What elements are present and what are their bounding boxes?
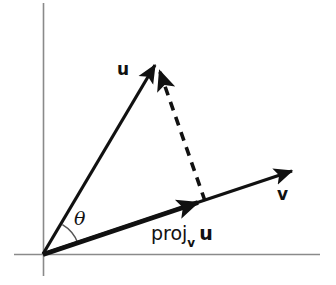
projection-label-suffix: u	[199, 222, 213, 244]
theta-angle-label: θ	[74, 209, 85, 228]
projection-label-prefix: proj	[151, 222, 187, 244]
vector-u-label: u	[117, 61, 129, 78]
projection-label: projvu	[151, 224, 213, 247]
vector-projection-figure: u v θ projvu	[0, 0, 336, 285]
vector-u-arrow	[43, 65, 155, 254]
vector-v-label: v	[277, 186, 288, 203]
projection-drop-line	[160, 72, 205, 201]
projection-label-subscript: v	[187, 236, 195, 250]
